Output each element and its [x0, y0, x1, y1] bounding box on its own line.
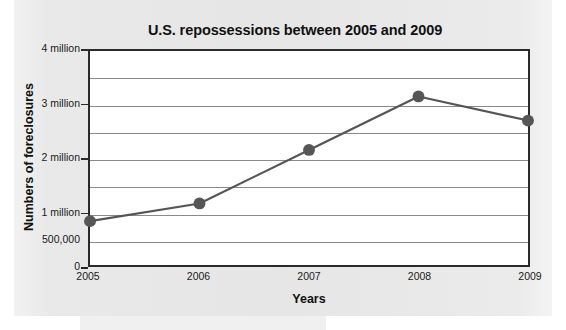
x-tick-label: 2008 [390, 270, 450, 282]
data-series [90, 51, 528, 265]
y-tick-mark [81, 267, 88, 269]
paper-edge-strip [80, 316, 326, 330]
chart-page: U.S. repossessions between 2005 and 2009… [0, 0, 566, 330]
x-tick-label: 2009 [500, 270, 560, 282]
data-point-marker [84, 215, 96, 227]
y-tick-label: 500,000 [14, 233, 80, 245]
y-tick-mark [81, 158, 88, 160]
y-tick-mark [81, 213, 88, 215]
series-line [90, 96, 528, 221]
y-tick-mark [81, 49, 88, 51]
y-tick-label: 4 million [14, 42, 80, 54]
y-tick-label: 3 million [14, 97, 80, 109]
chart-title: U.S. repossessions between 2005 and 2009 [60, 22, 530, 38]
data-point-marker [194, 198, 206, 210]
x-axis-title: Years [88, 292, 530, 306]
x-tick-label: 2005 [58, 270, 118, 282]
x-tick-label: 2006 [169, 270, 229, 282]
x-tick-label: 2007 [279, 270, 339, 282]
y-tick-mark [81, 104, 88, 106]
plot-area [88, 49, 530, 267]
y-tick-label: 2 million [14, 151, 80, 163]
series-markers [84, 91, 534, 227]
data-point-marker [522, 115, 534, 127]
data-point-marker [303, 144, 315, 156]
y-tick-label: 1 million [14, 206, 80, 218]
data-point-marker [413, 91, 425, 103]
